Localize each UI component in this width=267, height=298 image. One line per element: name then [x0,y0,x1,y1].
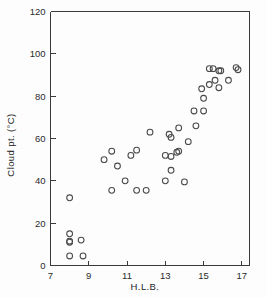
data-point [226,77,232,83]
data-point [168,167,174,173]
x-tick-label: 9 [86,270,91,281]
data-point [143,187,149,193]
data-point [67,231,73,237]
data-point [185,139,191,145]
data-point [216,85,222,91]
y-axis-ticks: 020406080100120 [30,6,56,271]
y-tick-label: 20 [35,218,46,229]
x-tick-label: 13 [160,270,171,281]
data-point [206,82,212,88]
y-tick-label: 60 [35,133,46,144]
y-tick-label: 120 [30,6,46,17]
data-point [78,237,84,243]
data-point [109,148,115,154]
data-point [191,108,197,114]
data-point [168,154,174,160]
x-tick-label: 17 [237,270,248,281]
data-point [210,66,216,72]
data-point [67,195,73,201]
data-point [201,108,207,114]
data-points-group [67,65,241,259]
y-tick-label: 80 [35,91,46,102]
y-tick-label: 40 [35,175,46,186]
data-point [162,178,168,184]
data-point [134,147,140,153]
y-tick-label: 0 [40,260,45,271]
data-point [147,129,153,135]
data-point [176,125,182,131]
x-axis-label: H.L.B. [131,281,160,292]
data-point [134,187,140,193]
scatter-plot-figure: 7911131517 020406080100120 H.L.B. Cloud … [0,0,267,298]
y-tick-label: 100 [30,48,46,59]
data-point [182,179,188,185]
data-point [80,253,86,259]
data-point [212,77,218,83]
x-tick-label: 11 [122,270,132,281]
data-point [101,157,107,163]
data-point [193,123,199,129]
x-axis-ticks: 7911131517 [48,261,247,281]
axes-frame [51,12,250,266]
plot-canvas: 7911131517 020406080100120 H.L.B. Cloud … [0,0,267,298]
data-point [115,163,121,169]
data-point [201,95,207,101]
data-point [176,148,182,154]
data-point [67,253,73,259]
x-tick-label: 7 [48,270,53,281]
x-tick-label: 15 [198,270,209,281]
data-point [162,153,168,159]
data-point [128,153,134,159]
data-point [122,178,128,184]
data-point [109,187,115,193]
y-axis-label: Cloud pt. (°C) [5,113,16,176]
data-point [199,86,205,92]
